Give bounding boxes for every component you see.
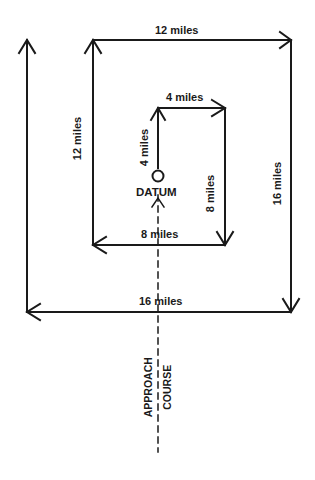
- label-leg-7: 16 miles: [272, 162, 283, 205]
- label-leg-6: 12 miles: [155, 25, 198, 36]
- approach-course-label-line2: COURSE: [162, 365, 173, 410]
- search-pattern-diagram: [0, 0, 315, 480]
- datum-label: DATUM: [136, 187, 177, 199]
- label-leg-3: 8 miles: [205, 175, 216, 212]
- label-leg-8: 16 miles: [139, 296, 182, 307]
- label-leg-4: 8 miles: [141, 229, 178, 240]
- label-leg-2: 4 miles: [166, 92, 203, 103]
- label-leg-5: 12 miles: [72, 117, 83, 160]
- approach-course-label-line1: APPROACH: [143, 357, 154, 417]
- datum-marker: [153, 171, 164, 182]
- label-leg-1: 4 miles: [139, 129, 150, 166]
